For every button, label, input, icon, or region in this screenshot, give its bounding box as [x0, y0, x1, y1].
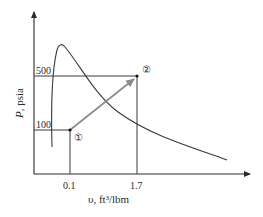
y-axis-label-unit: , psia	[13, 88, 25, 111]
y-tick-100: 100	[36, 119, 51, 130]
state-label-2: ②	[142, 64, 151, 75]
pv-diagram: ① ② 500 100 0.1 1.7 υ, ft³/lbm P, psia	[0, 0, 263, 217]
y-tick-500: 500	[36, 65, 51, 76]
x-tick-1-7: 1.7	[130, 180, 143, 191]
state-label-1: ①	[74, 132, 83, 143]
x-axis-label: υ, ft³/lbm	[88, 193, 130, 205]
state-point-1	[68, 128, 71, 131]
process-arrow	[70, 79, 134, 130]
state-point-2	[135, 74, 138, 77]
x-tick-0-1: 0.1	[63, 180, 76, 191]
svg-text:P, psia: P, psia	[13, 88, 25, 119]
